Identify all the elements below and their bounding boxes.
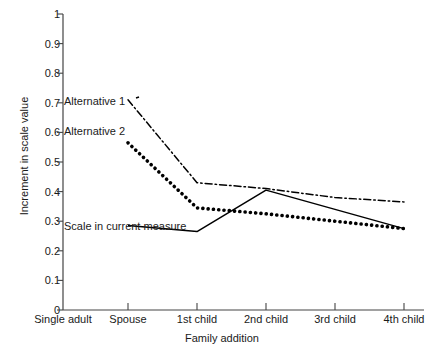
- series-label-alternative-1: Alternative 1: [64, 95, 125, 107]
- plot-area: [0, 0, 444, 355]
- series-label-alternative-2: Alternative 2: [64, 125, 125, 137]
- series-line-alternative-1: [128, 100, 404, 202]
- series-line-alternative-2: [128, 143, 404, 229]
- chart-container: Increment in scale value 1 0.9 0.8 0.7 0…: [0, 0, 444, 355]
- x-tick-marks: [128, 303, 404, 310]
- alternative-1-leader-tick: [136, 97, 139, 98]
- y-tick-marks: [57, 14, 63, 310]
- series-label-scale-in-current-measure: Scale in current measure: [64, 220, 186, 232]
